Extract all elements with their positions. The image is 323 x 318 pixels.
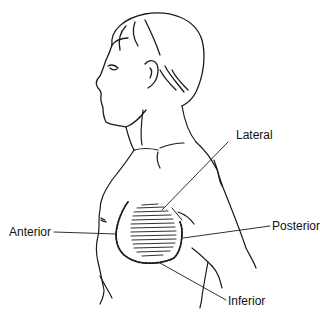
leader-lines — [54, 142, 270, 300]
leader-lateral — [162, 142, 228, 210]
label-anterior: Anterior — [9, 226, 51, 238]
leader-inferior — [160, 263, 226, 300]
diagram: Lateral Anterior Posterior Inferior — [0, 0, 323, 318]
leader-anterior — [54, 232, 116, 234]
torso — [97, 142, 257, 308]
neck — [126, 106, 196, 150]
leader-posterior — [183, 226, 270, 238]
figure-drawing — [0, 0, 323, 318]
label-posterior: Posterior — [272, 220, 320, 232]
label-lateral: Lateral — [236, 129, 273, 141]
label-inferior: Inferior — [228, 295, 265, 307]
head — [96, 13, 204, 127]
hatched-region — [116, 202, 182, 263]
